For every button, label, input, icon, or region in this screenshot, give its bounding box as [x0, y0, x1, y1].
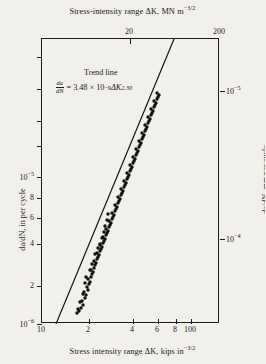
- data-point: [78, 300, 81, 303]
- axis-tick: [176, 319, 177, 324]
- data-point: [128, 163, 131, 166]
- data-point: [105, 218, 108, 221]
- axis-tick: [220, 239, 225, 240]
- data-point: [92, 266, 95, 269]
- top-tick-label: 20: [125, 27, 133, 36]
- data-point: [84, 293, 87, 296]
- equation-denominator: dN: [55, 88, 64, 95]
- axis-tick: [37, 198, 42, 199]
- data-point: [102, 230, 105, 233]
- left-tick-label: 4: [30, 239, 34, 248]
- data-point: [137, 139, 140, 142]
- bottom-axis-title: Stress intensity range ΔK, kips in−3/2: [0, 344, 265, 356]
- axis-tick: [37, 57, 42, 58]
- data-point: [79, 306, 82, 309]
- data-point: [100, 236, 103, 239]
- data-point: [85, 285, 88, 288]
- data-point: [83, 296, 86, 299]
- axis-tick: [89, 319, 90, 324]
- data-point: [81, 303, 84, 306]
- data-point: [103, 224, 106, 227]
- bottom-tick-label: 4: [130, 325, 134, 334]
- data-point: [122, 179, 125, 182]
- data-point: [88, 268, 91, 271]
- data-point: [110, 211, 113, 214]
- data-point: [116, 195, 119, 198]
- axis-tick: [158, 319, 159, 324]
- tick-exponent: −5: [27, 170, 34, 177]
- bottom-tick-label: 2: [86, 325, 90, 334]
- tick-exponent: −4: [234, 232, 241, 239]
- left-tick-label: 6: [30, 213, 34, 222]
- data-point: [140, 131, 143, 134]
- axis-tick: [37, 286, 42, 287]
- data-point: [98, 242, 101, 245]
- left-axis-title: da/dN, in per cycle: [18, 170, 27, 270]
- bottom-tick-label: 100: [184, 325, 196, 334]
- top-axis-title-text: Stress-intensity range ΔK, MN m: [69, 7, 183, 16]
- data-point: [106, 212, 109, 215]
- axis-tick: [37, 146, 42, 147]
- data-point: [104, 227, 107, 230]
- right-tick-label: 10−5: [226, 84, 241, 96]
- top-tick-label: 200: [213, 27, 225, 36]
- equation-exponent-2: 2.30: [121, 84, 132, 91]
- equation-delta-k: ΔK: [111, 83, 121, 92]
- data-point: [125, 171, 128, 174]
- left-tick-label: 8: [30, 193, 34, 202]
- data-point: [119, 187, 122, 190]
- data-point: [113, 203, 116, 206]
- bottom-tick-label: 6: [155, 325, 159, 334]
- top-axis-title: Stress-intensity range ΔK, MN m−3/2: [0, 4, 265, 16]
- axis-tick: [37, 89, 42, 90]
- data-point: [92, 259, 95, 262]
- data-points: [75, 91, 160, 314]
- trend-line-label: Trend line: [84, 68, 118, 77]
- axis-tick: [37, 244, 42, 245]
- data-point: [131, 155, 134, 158]
- data-point: [155, 91, 158, 94]
- axis-tick: [133, 319, 134, 324]
- trend-line-equation: da dN = 3.48 × 10−9ΔK2.30: [55, 80, 132, 95]
- data-point: [88, 280, 91, 283]
- data-point: [152, 99, 155, 102]
- bottom-axis-title-exponent: −3/2: [184, 344, 196, 351]
- data-point: [143, 123, 146, 126]
- tick-exponent: −6: [27, 317, 34, 324]
- data-point: [76, 307, 79, 310]
- axis-tick: [130, 39, 131, 44]
- bottom-axis-title-text: Stress intensity range ΔK, kips in: [69, 347, 183, 356]
- data-point: [75, 311, 78, 314]
- data-point: [84, 275, 87, 278]
- data-point: [134, 147, 137, 150]
- axis-tick: [191, 319, 192, 324]
- equation-exponent-1: −9: [104, 84, 111, 91]
- left-tick-label: 10−5: [19, 170, 34, 182]
- equation-rhs-prefix: = 3.48 × 10: [66, 83, 104, 92]
- axis-tick: [37, 177, 42, 178]
- left-tick-label: 2: [30, 281, 34, 290]
- data-point: [89, 275, 92, 278]
- data-point: [90, 262, 93, 265]
- axis-tick: [37, 218, 42, 219]
- axis-tick: [220, 91, 225, 92]
- bottom-tick-label: 8: [173, 325, 177, 334]
- data-point: [93, 252, 96, 255]
- data-point: [83, 281, 86, 284]
- axis-tick: [37, 121, 42, 122]
- top-axis-title-exponent: −3/2: [184, 4, 196, 11]
- tick-exponent: −5: [234, 84, 241, 91]
- left-tick-label: 10−6: [19, 317, 34, 329]
- figure: Stress-intensity range ΔK, MN m−3/2 Stre…: [0, 0, 265, 364]
- right-tick-label: 10−4: [226, 232, 241, 244]
- data-point: [96, 246, 99, 249]
- data-point: [146, 115, 149, 118]
- equation-fraction: da dN: [55, 80, 64, 95]
- data-point: [149, 107, 152, 110]
- data-point: [86, 288, 89, 291]
- bottom-tick-label: 10: [37, 325, 45, 334]
- data-point: [81, 292, 84, 295]
- right-axis-title: da/dN, mm per cycle: [261, 130, 266, 230]
